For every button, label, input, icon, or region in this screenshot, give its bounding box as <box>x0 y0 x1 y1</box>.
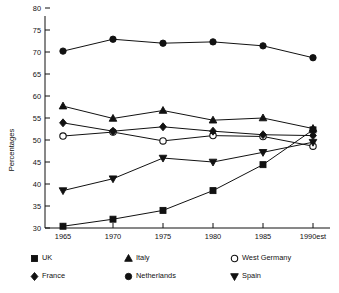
y-axis-ticks: 3035404550556065707580 <box>33 4 50 233</box>
filled-circle-marker <box>210 39 216 45</box>
legend-item-west-germany: West Germany <box>216 250 339 266</box>
x-axis-ticks: 196519701975198019851990est <box>55 223 326 241</box>
filled-triangle-up-icon <box>124 254 133 263</box>
filled-circle-marker <box>310 55 316 61</box>
x-tick-label: 1965 <box>55 232 71 241</box>
y-tick-label: 40 <box>33 180 41 189</box>
filled-square-icon <box>30 254 39 263</box>
chart-container: 3035404550556065707580 19651970197519801… <box>0 0 339 293</box>
y-axis-title: Percentages <box>7 128 16 171</box>
y-tick-label: 70 <box>33 48 41 57</box>
open-circle-marker <box>160 138 166 144</box>
legend-item-label: West Germany <box>242 254 291 262</box>
open-circle-marker <box>60 133 66 139</box>
y-tick-label: 50 <box>33 136 41 145</box>
filled-diamond-icon <box>30 272 39 281</box>
open-circle-marker <box>231 255 237 261</box>
filled-triangle-down-marker <box>59 188 67 195</box>
y-tick-label: 45 <box>33 158 41 167</box>
y-tick-label: 80 <box>33 4 41 13</box>
legend-row: UK Italy West Germany <box>0 250 339 266</box>
x-tick-label: 1980 <box>205 232 221 241</box>
legend-item-label: Italy <box>136 254 150 262</box>
filled-diamond-marker <box>60 119 67 127</box>
filled-square-marker <box>160 207 166 213</box>
chart-axes <box>45 16 330 228</box>
chart-legend: UK Italy West Germany France Netherlands <box>0 250 339 293</box>
filled-triangle-down-marker <box>209 159 217 166</box>
x-tick-label: 1975 <box>155 232 171 241</box>
filled-triangle-down-icon <box>230 272 239 281</box>
filled-square-marker <box>60 223 66 229</box>
line-chart-plot: 3035404550556065707580 19651970197519801… <box>0 0 339 250</box>
series-italy <box>59 102 317 131</box>
series-netherlands <box>60 36 316 61</box>
y-tick-label: 55 <box>33 114 41 123</box>
open-circle-icon <box>230 254 239 263</box>
filled-square-marker <box>110 216 116 222</box>
filled-triangle-up-marker <box>59 102 67 109</box>
x-tick-label: 1970 <box>105 232 121 241</box>
filled-circle-marker <box>110 36 116 42</box>
series-uk <box>60 127 316 229</box>
series-france <box>60 119 317 140</box>
filled-triangle-up-marker <box>159 107 167 114</box>
legend-item-netherlands: Netherlands <box>108 268 216 284</box>
filled-circle-marker <box>125 273 131 279</box>
legend-item-label: Netherlands <box>136 272 176 280</box>
series-west-germany <box>60 129 316 149</box>
legend-item-label: France <box>42 272 65 280</box>
filled-circle-icon <box>124 272 133 281</box>
filled-diamond-marker <box>160 123 167 131</box>
filled-diamond-marker <box>31 272 38 280</box>
legend-item-italy: Italy <box>108 250 216 266</box>
filled-circle-marker <box>160 40 166 46</box>
series-spain <box>59 139 317 194</box>
legend-item-france: France <box>0 268 108 284</box>
y-tick-label: 60 <box>33 92 41 101</box>
filled-circle-marker <box>260 43 266 49</box>
x-tick-label: 1990est <box>300 232 326 241</box>
chart-series-group <box>59 36 317 229</box>
y-tick-label: 30 <box>33 224 41 233</box>
filled-square-marker <box>32 255 38 261</box>
legend-item-spain: Spain <box>216 268 339 284</box>
filled-triangle-up-marker <box>259 114 267 121</box>
legend-item-label: UK <box>42 254 52 262</box>
x-tick-label: 1985 <box>255 232 271 241</box>
legend-item-uk: UK <box>0 250 108 266</box>
y-tick-label: 75 <box>33 26 41 35</box>
filled-square-marker <box>210 188 216 194</box>
filled-circle-marker <box>60 48 66 54</box>
filled-triangle-down-marker <box>231 273 239 280</box>
y-tick-label: 65 <box>33 70 41 79</box>
filled-square-marker <box>260 162 266 168</box>
filled-triangle-up-marker <box>125 254 133 261</box>
legend-item-label: Spain <box>242 272 261 280</box>
legend-row: France Netherlands Spain <box>0 268 339 284</box>
y-tick-label: 35 <box>33 202 41 211</box>
